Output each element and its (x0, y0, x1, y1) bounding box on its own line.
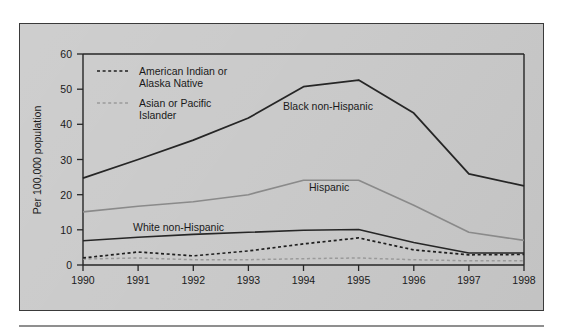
y-tick-label-50: 50 (60, 83, 72, 95)
x-tick-label-1996: 1996 (402, 274, 426, 286)
legend-item-asian-or-pacific-islander: Asian or Pacific Islander (97, 97, 211, 121)
x-axis-tick-labels: 1990 1991 1992 1993 1994 1995 1996 1997 … (71, 274, 536, 286)
legend-label-asian-pacific-line1: Asian or Pacific (139, 97, 211, 109)
y-tick-label-0: 0 (66, 259, 72, 271)
x-tick-label-1991: 1991 (126, 274, 150, 286)
x-tick-label-1993: 1993 (237, 274, 261, 286)
annotation-hispanic: Hispanic (309, 181, 349, 193)
x-tick-label-1992: 1992 (182, 274, 206, 286)
series-line-black-non-hispanic (83, 80, 524, 186)
legend-label-american-indian-line1: American Indian or (139, 65, 228, 77)
x-tick-label-1997: 1997 (457, 274, 481, 286)
legend-item-american-indian-or-alaska-native: American Indian or Alaska Native (97, 65, 228, 89)
x-axis-ticks (83, 265, 524, 271)
y-axis-title: Per 100,000 population (31, 106, 43, 215)
figure-container: 0 10 20 30 40 50 60 Per 100,000 populati… (0, 0, 562, 331)
y-tick-label-20: 20 (60, 189, 72, 201)
legend: American Indian or Alaska Native Asian o… (97, 65, 228, 121)
x-tick-label-1994: 1994 (292, 274, 316, 286)
x-tick-label-1990: 1990 (71, 274, 95, 286)
legend-label-american-indian-line2: Alaska Native (139, 77, 203, 89)
chart-svg: 0 10 20 30 40 50 60 Per 100,000 populati… (0, 0, 562, 331)
x-tick-label-1995: 1995 (347, 274, 371, 286)
series-line-asian-or-pacific-islander (83, 258, 524, 261)
y-axis-ticks (77, 54, 83, 265)
y-tick-label-10: 10 (60, 224, 72, 236)
legend-label-asian-pacific-line2: Islander (139, 109, 177, 121)
series-line-american-indian-or-alaska-native (83, 238, 524, 258)
annotation-black-non-hispanic: Black non-Hispanic (283, 100, 373, 112)
y-tick-label-40: 40 (60, 118, 72, 130)
bottom-divider-rule (19, 325, 544, 327)
annotation-white-non-hispanic: White non-Hispanic (133, 221, 224, 233)
y-axis-tick-labels: 0 10 20 30 40 50 60 (60, 48, 72, 271)
series-line-white-non-hispanic (83, 229, 524, 253)
y-tick-label-60: 60 (60, 48, 72, 60)
y-tick-label-30: 30 (60, 154, 72, 166)
x-tick-label-1998: 1998 (512, 274, 536, 286)
